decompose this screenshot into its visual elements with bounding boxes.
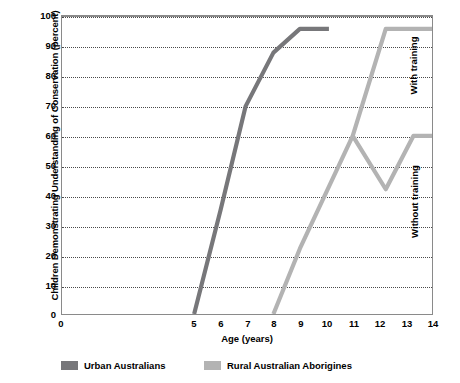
chart-figure: Children Demonstrating Understanding of … <box>0 0 460 383</box>
x-tick-label-5: 5 <box>182 318 206 329</box>
legend-swatch-rural <box>204 361 221 370</box>
x-axis-title: Age (years) <box>61 333 433 344</box>
y-tick-label-90: 90 <box>30 41 56 51</box>
line-urban-australians <box>194 29 329 314</box>
y-tick-label-20: 20 <box>30 251 56 261</box>
x-tick-label-11: 11 <box>342 318 366 329</box>
legend-label-urban: Urban Australians <box>84 360 165 371</box>
y-tick-label-40: 40 <box>30 191 56 201</box>
chart-legend: Urban Australians Rural Australian Abori… <box>61 358 441 378</box>
x-tick-label-8: 8 <box>262 318 286 329</box>
legend-item-rural-australian-aborigines: Rural Australian Aborigines <box>204 360 352 371</box>
x-tick-label-13: 13 <box>395 318 419 329</box>
x-tick-label-12: 12 <box>368 318 392 329</box>
y-tick-label-30: 30 <box>30 221 56 231</box>
x-tick-label-6: 6 <box>209 318 233 329</box>
legend-label-rural: Rural Australian Aborigines <box>227 360 352 371</box>
x-tick-label-10: 10 <box>315 318 339 329</box>
x-tick-label-9: 9 <box>289 318 313 329</box>
series-canvas <box>62 17 432 314</box>
legend-item-urban-australians: Urban Australians <box>61 360 165 371</box>
y-tick-label-100: 100 <box>30 11 56 21</box>
legend-swatch-urban <box>61 361 78 370</box>
y-tick-label-50: 50 <box>30 161 56 171</box>
y-tick-label-70: 70 <box>30 101 56 111</box>
y-tick-label-80: 80 <box>30 71 56 81</box>
annotation-without-training: Without training <box>409 150 420 254</box>
x-tick-label-7: 7 <box>236 318 260 329</box>
line-rural-with-training-branch <box>353 29 432 136</box>
x-tick-label-14: 14 <box>421 318 445 329</box>
y-tick-label-60: 60 <box>30 131 56 141</box>
annotation-with-training: With training <box>408 21 419 111</box>
plot-area <box>61 15 433 315</box>
y-tick-label-10: 10 <box>30 281 56 291</box>
x-tick-label-0: 0 <box>49 318 73 329</box>
